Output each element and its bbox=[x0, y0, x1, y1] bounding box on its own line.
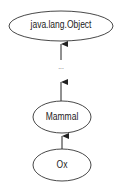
object-label: java.lang.Object bbox=[19, 19, 104, 30]
ox-label: Ox bbox=[37, 159, 88, 170]
mammal-label: Mammal bbox=[37, 111, 88, 122]
ellipsis-label: ... bbox=[44, 62, 78, 71]
